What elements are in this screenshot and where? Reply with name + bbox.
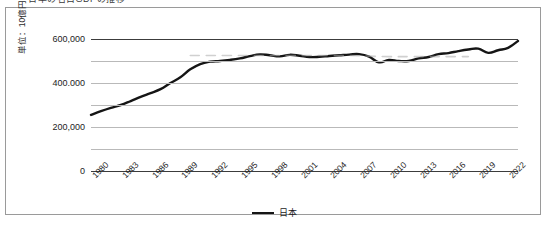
y-axis-tick-label: 0: [19, 166, 85, 176]
gridline: [91, 127, 518, 128]
y-axis-tick-label: 400.000: [19, 78, 85, 88]
series-line-日本: [91, 41, 518, 115]
x-axis-tick-labels: 1980198319861989199219951998200120042007…: [91, 173, 518, 207]
chart-caption-strip: 日本の名目GDPの推移: [0, 0, 547, 7]
gridline: [91, 83, 518, 84]
y-axis-tick-label: 600,000: [19, 34, 85, 44]
chart-frame: 単位：10億円 0200,000400.000600,000 198019831…: [5, 7, 541, 215]
gridline: [91, 149, 518, 150]
gridline: [91, 105, 518, 106]
gridline: [91, 61, 518, 62]
chart-caption: 日本の名目GDPの推移: [28, 0, 125, 5]
legend-line-swatch: [252, 212, 274, 214]
y-axis-tick-labels: 0200,000400.000600,000: [15, 39, 85, 171]
gridline: [91, 39, 518, 40]
chart-legend: 日本: [6, 206, 542, 219]
legend-label-japan: 日本: [279, 206, 297, 219]
plot-area: [91, 39, 518, 171]
y-axis-tick-label: 200,000: [19, 122, 85, 132]
